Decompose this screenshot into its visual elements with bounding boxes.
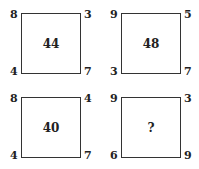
top-left-number: 9 <box>110 9 118 20</box>
bottom-left-number: 6 <box>110 150 118 161</box>
top-right-number: 3 <box>84 9 92 20</box>
bottom-right-number: 9 <box>184 150 192 161</box>
bottom-left-number: 4 <box>10 66 18 77</box>
center-number: 48 <box>122 37 180 51</box>
square: 40 <box>21 97 81 158</box>
bottom-right-number: 7 <box>84 150 92 161</box>
top-left-number: 9 <box>110 93 118 104</box>
square: 44 <box>21 13 81 74</box>
top-left-number: 8 <box>10 93 18 104</box>
unknown-center: ? <box>122 121 180 135</box>
top-right-number: 3 <box>184 93 192 104</box>
bottom-left-number: 4 <box>10 150 18 161</box>
center-number: 40 <box>22 121 80 135</box>
square: ? <box>121 97 181 158</box>
top-right-number: 4 <box>84 93 92 104</box>
bottom-left-number: 3 <box>110 66 118 77</box>
top-right-number: 5 <box>184 9 192 20</box>
top-left-number: 8 <box>10 9 18 20</box>
center-number: 44 <box>22 37 80 51</box>
square: 48 <box>121 13 181 74</box>
bottom-right-number: 7 <box>184 66 192 77</box>
bottom-right-number: 7 <box>84 66 92 77</box>
